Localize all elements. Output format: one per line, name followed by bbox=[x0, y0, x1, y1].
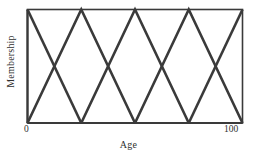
plot-frame bbox=[28, 10, 243, 124]
y-axis-label: Membership bbox=[0, 0, 20, 123]
y-axis-label-text: Membership bbox=[5, 35, 16, 88]
x-tick-label-min: 0 bbox=[24, 124, 29, 134]
membership-age-figure: Membership Age 0 100 bbox=[0, 0, 257, 162]
x-axis-label: Age bbox=[0, 139, 257, 150]
x-tick-label-max: 100 bbox=[224, 124, 238, 134]
plot-area bbox=[0, 0, 257, 162]
